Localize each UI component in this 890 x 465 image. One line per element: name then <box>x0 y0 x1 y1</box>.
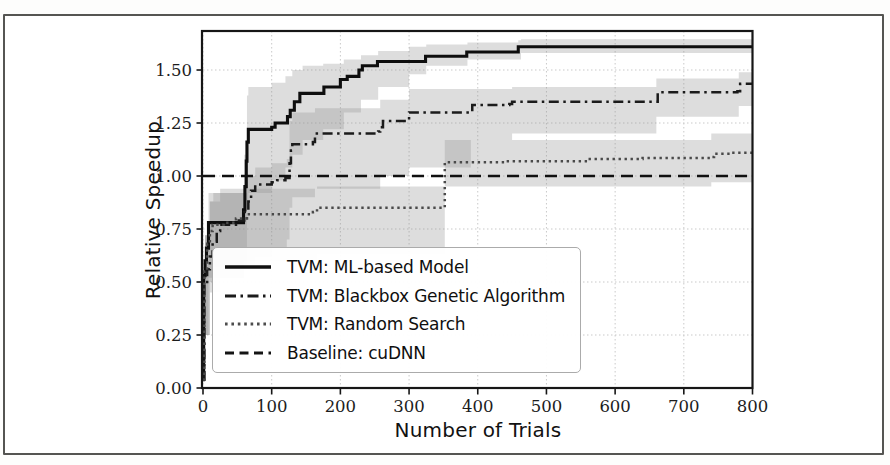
x-tick-label: 600 <box>599 397 631 416</box>
y-axis-label: Relative Speedup <box>141 15 169 405</box>
dashed-line-icon <box>222 343 274 363</box>
legend-label: Baseline: cuDNN <box>287 343 426 363</box>
legend-label: TVM: Blackbox Genetic Algorithm <box>287 286 565 306</box>
x-tick-label: 400 <box>462 397 494 416</box>
legend: TVM: ML-based Model TVM: Blackbox Geneti… <box>212 247 581 373</box>
x-tick-label: 0 <box>198 397 209 416</box>
x-tick-label: 100 <box>256 397 288 416</box>
legend-item-baseline: Baseline: cuDNN <box>222 343 574 363</box>
x-tick-label: 500 <box>531 397 563 416</box>
dashdot-line-icon <box>222 286 274 306</box>
legend-item-genetic: TVM: Blackbox Genetic Algorithm <box>222 286 574 306</box>
dotted-line-icon <box>222 314 274 334</box>
x-tick-label: 700 <box>668 397 700 416</box>
x-tick-label: 300 <box>393 397 425 416</box>
screenshot-root: 01002003004005006007008000.000.250.500.7… <box>0 0 890 465</box>
legend-label: TVM: Random Search <box>287 314 465 334</box>
speedup-chart: 01002003004005006007008000.000.250.500.7… <box>0 0 890 465</box>
x-tick-label: 200 <box>325 397 357 416</box>
x-tick-label: 800 <box>737 397 769 416</box>
legend-item-ml-model: TVM: ML-based Model <box>222 257 574 277</box>
legend-label: TVM: ML-based Model <box>287 257 469 277</box>
x-axis-label: Number of Trials <box>203 418 753 444</box>
solid-line-icon <box>222 257 274 277</box>
legend-item-random-search: TVM: Random Search <box>222 314 574 334</box>
